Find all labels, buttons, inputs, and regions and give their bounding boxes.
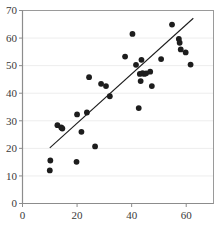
y-tick-label: 60: [6, 32, 18, 44]
y-tick-label: 20: [6, 142, 18, 154]
y-tick-label: 70: [6, 4, 18, 16]
plot-frame: [23, 11, 214, 204]
data-point: [188, 62, 194, 68]
data-point: [122, 54, 128, 60]
data-point: [79, 129, 85, 135]
data-point: [139, 57, 145, 63]
data-point: [47, 158, 53, 164]
scatter-plot-figure: 0102030405060700204060: [0, 0, 219, 227]
x-axis: 0204060: [20, 204, 192, 221]
data-point: [158, 56, 164, 62]
y-tick-label: 10: [6, 170, 18, 182]
data-point: [183, 50, 189, 56]
data-point: [74, 159, 80, 165]
data-point: [177, 40, 183, 46]
data-point: [147, 69, 153, 75]
y-tick-label: 40: [6, 87, 18, 99]
y-tick-label: 30: [6, 115, 18, 127]
y-tick-label: 0: [12, 197, 18, 209]
axis-frame: [23, 11, 214, 204]
data-point: [133, 62, 139, 68]
data-point: [47, 168, 53, 174]
y-tick-label: 50: [6, 59, 18, 71]
data-point: [149, 83, 155, 89]
chart-canvas: 0102030405060700204060: [0, 0, 219, 227]
data-point: [169, 22, 175, 28]
data-point: [130, 31, 136, 37]
data-point: [92, 144, 98, 150]
data-points: [47, 22, 194, 174]
data-point: [59, 126, 65, 132]
data-point: [178, 46, 184, 52]
x-tick-label: 60: [181, 209, 193, 221]
data-point: [86, 74, 92, 80]
data-point: [138, 78, 144, 84]
x-tick-label: 40: [126, 209, 138, 221]
gridlines: [23, 11, 214, 176]
data-point: [136, 105, 142, 111]
y-axis: 010203040506070: [6, 4, 23, 209]
x-tick-label: 0: [20, 209, 26, 221]
data-point: [74, 112, 80, 118]
x-tick-label: 20: [72, 209, 84, 221]
data-point: [103, 83, 109, 89]
